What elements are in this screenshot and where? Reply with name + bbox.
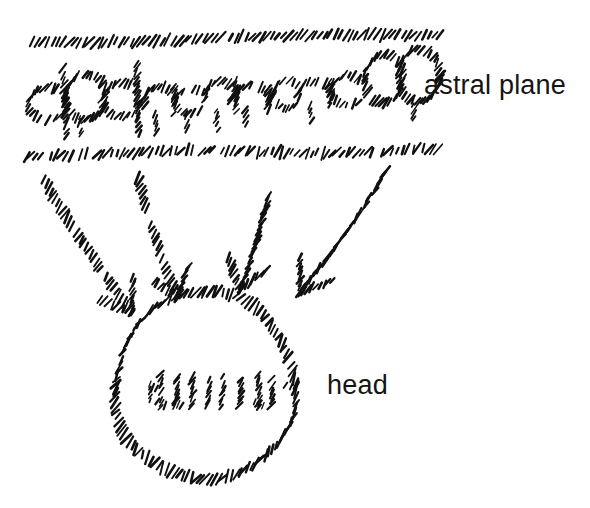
- label-astral-plane: astral plane: [424, 70, 566, 100]
- diagram-canvas: astral plane head: [0, 0, 590, 508]
- astral-plane-top-rule: [30, 28, 443, 49]
- label-head: head: [327, 370, 388, 400]
- astral-plane-bottom-rule: [24, 143, 442, 162]
- illegible-scribble-text: [26, 46, 445, 140]
- head-circle: [110, 286, 299, 486]
- head-inner-scribble: [149, 371, 299, 410]
